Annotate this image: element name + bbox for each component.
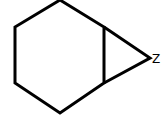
- hexagon-ring: [15, 0, 104, 113]
- molecule-diagram: Z: [0, 0, 167, 123]
- triangle-ring: [104, 27, 150, 83]
- atom-label-z: Z: [152, 52, 160, 66]
